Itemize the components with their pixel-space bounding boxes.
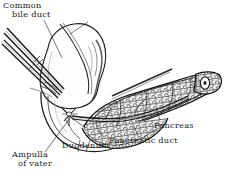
anatomical-figure: Commonbile duct Ampullaof vater Duodenum… <box>0 0 227 180</box>
label-pancreatic-duct: Pancreatic duct <box>109 136 178 145</box>
label-ampulla-of-vater: Ampullaof vater <box>8 150 52 169</box>
label-ampulla-of-vater-line2: of vater <box>8 159 52 168</box>
label-pancreas: Pancreas <box>154 121 194 130</box>
label-duodenum: Duodenum <box>62 141 109 150</box>
label-common-bile-duct: Commonbile duct <box>3 1 51 20</box>
label-common-bile-duct-line2: bile duct <box>3 10 51 19</box>
